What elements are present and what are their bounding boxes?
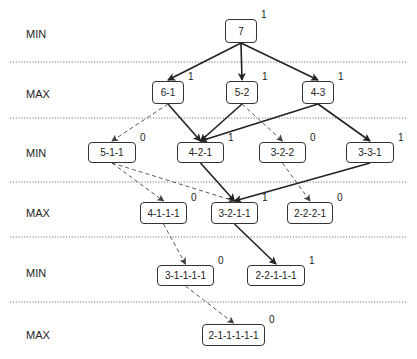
solid-edge: [201, 104, 319, 141]
level-label-min: MIN: [26, 147, 46, 159]
node-value: 1: [398, 132, 404, 143]
node-value: 1: [338, 71, 344, 82]
tree-node: 5-1-1: [88, 142, 136, 163]
node-value: 0: [269, 314, 275, 325]
node-label: 3-2-1-1: [218, 208, 250, 219]
tree-node: 4-2-1: [177, 142, 224, 163]
node-label: 4-2-1: [189, 147, 212, 158]
node-label: 2-1-1-1-1-1: [208, 330, 258, 341]
tree-node: 5-2: [226, 81, 258, 104]
node-label: 3-3-1: [358, 147, 381, 158]
node-value: 0: [191, 192, 197, 203]
tree-node: 4-1-1-1: [140, 202, 187, 224]
tree-node: 4-3: [302, 81, 334, 104]
level-label-min: MIN: [26, 267, 46, 279]
node-label: 4-1-1-1: [147, 208, 179, 219]
node-value: 0: [337, 192, 343, 203]
node-value: 1: [262, 71, 268, 82]
dashed-edge: [186, 286, 234, 323]
node-label: 4-3: [311, 87, 325, 98]
tree-node: 7: [225, 19, 257, 43]
level-label-max: MAX: [26, 88, 50, 100]
tree-node: 3-2-2: [259, 142, 306, 163]
dashed-edge: [283, 163, 311, 201]
tree-node: 6-1: [152, 81, 184, 104]
minimax-game-tree: MINMAXMINMAXMINMAX 716-115-214-315-1-104…: [0, 0, 417, 359]
node-label: 3-2-2: [271, 147, 294, 158]
dashed-edge: [242, 104, 283, 141]
node-value: 1: [262, 192, 268, 203]
tree-node: 2-2-2-1: [287, 202, 333, 224]
level-label-min: MIN: [26, 28, 46, 40]
dashed-edge: [112, 163, 235, 201]
solid-edge: [241, 43, 318, 80]
node-value: 1: [228, 132, 234, 143]
tree-node: 3-3-1: [346, 142, 394, 163]
node-value: 1: [188, 71, 194, 82]
node-value: 0: [140, 132, 146, 143]
tree-node: 2-1-1-1-1-1: [202, 324, 265, 346]
node-label: 3-1-1-1-1: [165, 270, 206, 281]
solid-edge: [235, 224, 277, 264]
tree-node: 2-2-1-1-1: [247, 265, 305, 286]
solid-edge: [241, 43, 242, 80]
level-label-max: MAX: [26, 329, 50, 341]
edges-layer: [0, 0, 417, 359]
node-value: 0: [218, 255, 224, 266]
node-label: 2-2-1-1-1: [255, 270, 296, 281]
dashed-edge: [164, 224, 186, 264]
node-value: 1: [309, 255, 315, 266]
node-label: 5-1-1: [100, 147, 123, 158]
solid-edge: [201, 104, 243, 141]
solid-edge: [318, 104, 370, 141]
node-label: 7: [238, 26, 244, 37]
node-value: 0: [310, 132, 316, 143]
tree-node: 3-1-1-1-1: [157, 265, 214, 286]
solid-edge: [168, 104, 201, 141]
node-value: 1: [261, 9, 267, 20]
node-label: 6-1: [161, 87, 175, 98]
tree-node: 3-2-1-1: [211, 202, 258, 224]
node-label: 2-2-2-1: [294, 208, 326, 219]
solid-edge: [168, 43, 241, 80]
node-label: 5-2: [235, 87, 249, 98]
level-label-max: MAX: [26, 207, 50, 219]
